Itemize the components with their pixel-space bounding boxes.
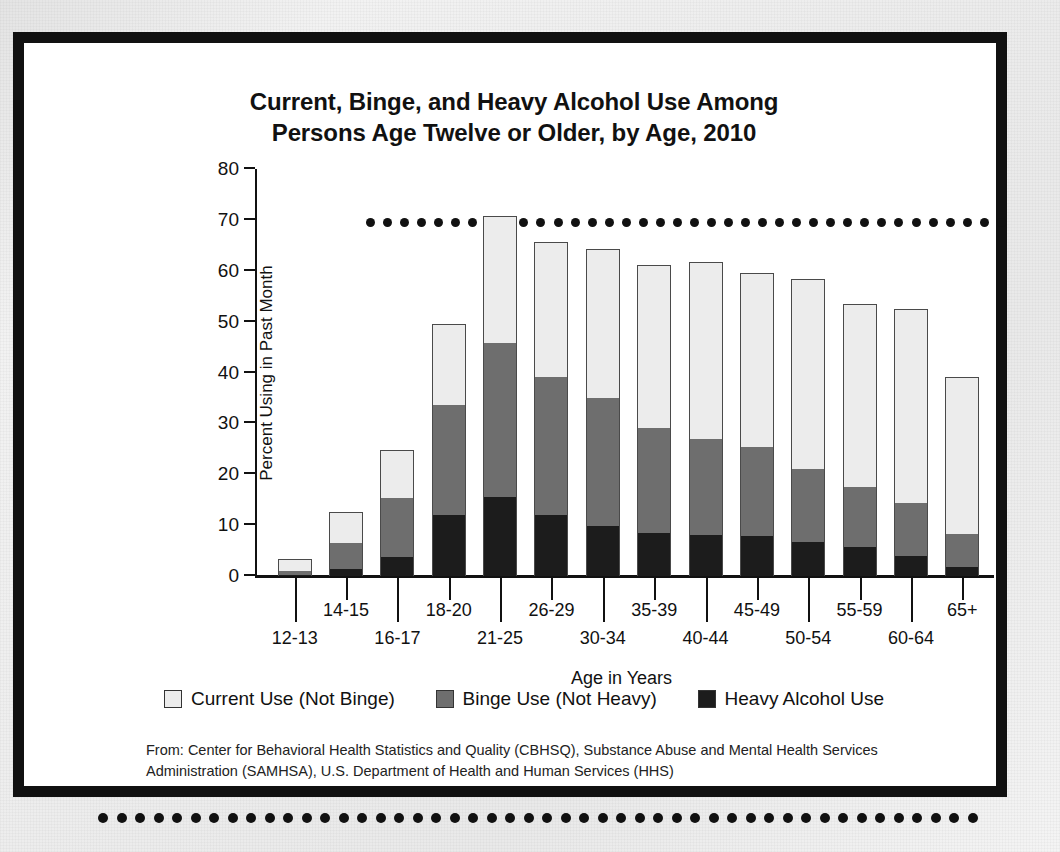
y-tick-label: 10 xyxy=(218,514,239,536)
bar-slot[interactable] xyxy=(629,169,680,576)
bar-segment-heavy-use xyxy=(741,536,773,576)
x-tick-label: 50-54 xyxy=(785,628,831,649)
bar-slot[interactable] xyxy=(423,169,474,576)
chart-legend: Current Use (Not Binge)Binge Use (Not He… xyxy=(164,688,884,710)
decorative-dot xyxy=(524,813,534,823)
decorative-dot xyxy=(487,813,497,823)
stacked-bar[interactable] xyxy=(534,242,568,576)
decorative-dot xyxy=(431,813,441,823)
bar-segment-heavy-use xyxy=(895,556,927,576)
bar-segment-binge-use xyxy=(433,405,465,516)
bar-segment-current-use xyxy=(741,274,773,447)
y-tick-label: 20 xyxy=(218,463,239,485)
bar-slot[interactable] xyxy=(474,169,525,576)
bar-slot[interactable] xyxy=(937,169,988,576)
bar-segment-binge-use xyxy=(844,487,876,547)
decorative-dot xyxy=(801,813,811,823)
stacked-bar[interactable] xyxy=(586,249,620,576)
legend-item[interactable]: Binge Use (Not Heavy) xyxy=(436,688,657,710)
x-tick xyxy=(397,576,399,622)
stacked-bar[interactable] xyxy=(432,324,466,576)
x-tick-label: 21-25 xyxy=(477,628,523,649)
bar-segment-current-use xyxy=(587,250,619,398)
bar-segment-heavy-use xyxy=(330,569,362,576)
decorative-dot xyxy=(598,813,608,823)
bar-group xyxy=(255,169,988,576)
decorative-dot xyxy=(727,813,737,823)
x-tick xyxy=(654,576,656,600)
y-tick xyxy=(244,472,255,474)
stacked-bar[interactable] xyxy=(380,450,414,576)
stacked-bar[interactable] xyxy=(329,512,363,576)
y-tick xyxy=(244,574,255,576)
legend-label: Current Use (Not Binge) xyxy=(191,688,395,710)
bar-slot[interactable] xyxy=(834,169,885,576)
legend-label: Heavy Alcohol Use xyxy=(725,688,884,710)
bar-segment-current-use xyxy=(535,243,567,377)
y-tick-label: 0 xyxy=(228,565,239,587)
bar-slot[interactable] xyxy=(320,169,371,576)
decorative-dot xyxy=(542,813,552,823)
stacked-bar[interactable] xyxy=(894,309,928,576)
bar-segment-current-use xyxy=(844,305,876,487)
x-tick xyxy=(757,576,759,600)
y-tick xyxy=(244,269,255,271)
decorative-dot xyxy=(357,813,367,823)
stacked-bar[interactable] xyxy=(740,273,774,576)
decorative-dot xyxy=(746,813,756,823)
chart-area: Percent Using in Past Month 010203040506… xyxy=(24,43,996,786)
decorative-dot xyxy=(561,813,571,823)
x-tick-label: 55-59 xyxy=(837,600,883,621)
x-tick xyxy=(295,576,297,622)
legend-item[interactable]: Heavy Alcohol Use xyxy=(698,688,884,710)
decorative-dot xyxy=(505,813,515,823)
decorative-dot xyxy=(302,813,312,823)
bar-slot[interactable] xyxy=(269,169,320,576)
y-tick-label: 60 xyxy=(218,260,239,282)
stacked-bar[interactable] xyxy=(278,559,312,576)
bar-segment-heavy-use xyxy=(535,515,567,576)
decorative-dot xyxy=(376,813,386,823)
decorative-dot xyxy=(783,813,793,823)
legend-swatch-heavy xyxy=(698,690,716,708)
decorative-dot xyxy=(579,813,589,823)
decorative-dot xyxy=(135,813,145,823)
decorative-dot xyxy=(820,813,830,823)
y-tick-label: 30 xyxy=(218,412,239,434)
y-tick xyxy=(244,167,255,169)
stacked-bar[interactable] xyxy=(483,216,517,576)
bar-slot[interactable] xyxy=(372,169,423,576)
plot-region: Percent Using in Past Month 010203040506… xyxy=(255,169,988,576)
bar-slot[interactable] xyxy=(731,169,782,576)
x-tick-label: 30-34 xyxy=(580,628,626,649)
legend-item[interactable]: Current Use (Not Binge) xyxy=(164,688,395,710)
stacked-bar[interactable] xyxy=(689,262,723,576)
bar-segment-binge-use xyxy=(535,377,567,515)
y-tick-label: 40 xyxy=(218,362,239,384)
bar-slot[interactable] xyxy=(526,169,577,576)
bar-segment-heavy-use xyxy=(587,526,619,576)
decorative-dot xyxy=(450,813,460,823)
stacked-bar[interactable] xyxy=(791,279,825,576)
decorative-dot xyxy=(209,813,219,823)
decorative-dot-row-bottom xyxy=(98,812,978,823)
legend-swatch-binge xyxy=(436,690,454,708)
bar-segment-binge-use xyxy=(895,503,927,555)
bar-slot[interactable] xyxy=(885,169,936,576)
stacked-bar[interactable] xyxy=(945,377,979,576)
bar-slot[interactable] xyxy=(680,169,731,576)
stacked-bar[interactable] xyxy=(843,304,877,576)
bar-slot[interactable] xyxy=(783,169,834,576)
decorative-dot xyxy=(246,813,256,823)
x-tick xyxy=(346,576,348,600)
bar-segment-current-use xyxy=(330,513,362,543)
bar-segment-current-use xyxy=(433,325,465,404)
x-tick xyxy=(808,576,810,622)
source-footnote: From: Center for Behavioral Health Stati… xyxy=(146,740,906,782)
bar-slot[interactable] xyxy=(577,169,628,576)
decorative-dot xyxy=(653,813,663,823)
decorative-dot xyxy=(857,813,867,823)
x-tick xyxy=(603,576,605,622)
stacked-bar[interactable] xyxy=(637,265,671,576)
y-tick-label: 80 xyxy=(218,158,239,180)
